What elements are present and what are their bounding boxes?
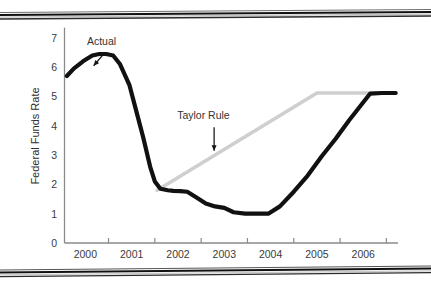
federal-funds-rate-chart: 012345672000200120022003200420052006 Act… (0, 0, 431, 284)
y-axis-tick-label: 0 (51, 237, 57, 249)
y-axis-title: Federal Funds Rate (29, 87, 41, 184)
x-axis-tick-label: 2002 (166, 248, 190, 260)
x-axis-tick-label: 2005 (305, 248, 329, 260)
y-axis-tick-label: 5 (51, 90, 57, 102)
x-axis-tick-label: 2006 (352, 248, 376, 260)
figure-root: 012345672000200120022003200420052006 Act… (0, 0, 431, 284)
x-axis-tick-label: 2001 (120, 248, 144, 260)
x-axis-tick-label: 2004 (259, 248, 283, 260)
y-axis-tick-label: 7 (51, 32, 57, 44)
y-axis-tick-label: 3 (51, 149, 57, 161)
series-label-actual: Actual (87, 35, 116, 47)
y-axis-tick-label: 6 (51, 61, 57, 73)
y-axis-tick-label: 2 (51, 178, 57, 190)
y-axis-tick-label: 4 (51, 120, 57, 132)
series-label-taylor-rule: Taylor Rule (177, 109, 230, 121)
x-axis-tick-label: 2003 (213, 248, 237, 260)
y-axis-tick-label: 1 (51, 208, 57, 220)
x-axis-tick-label: 2000 (74, 248, 98, 260)
